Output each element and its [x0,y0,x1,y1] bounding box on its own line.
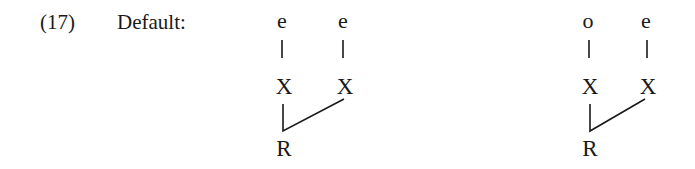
tree-branch-lines [0,0,695,169]
